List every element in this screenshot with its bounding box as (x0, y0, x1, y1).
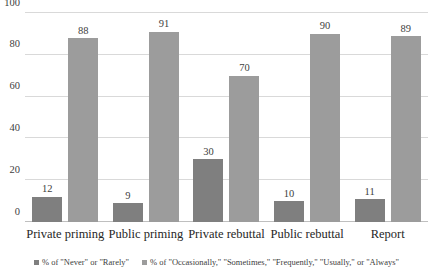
bar-slot: 70 (229, 13, 259, 222)
bar[interactable] (391, 36, 421, 222)
bar[interactable] (68, 38, 98, 222)
bar-groups: 1288991307010901189 (25, 13, 428, 222)
plot-area: 020406080100 1288991307010901189 (25, 13, 428, 222)
bar-slot: 9 (113, 13, 143, 222)
x-tick-label-0: Private priming (25, 228, 106, 242)
bar-value-label: 90 (320, 21, 331, 32)
y-tick-label-2: 40 (10, 123, 21, 134)
bar-group: 3070 (186, 13, 267, 222)
legend-swatch-icon (142, 260, 147, 265)
y-tick-label-0: 0 (15, 206, 20, 217)
y-tick-label-4: 80 (10, 39, 21, 50)
bar[interactable] (310, 34, 340, 222)
legend-item-0[interactable]: % of "Never" or "Rarely" (34, 258, 129, 267)
bar[interactable] (149, 32, 179, 222)
bar-slot: 91 (149, 13, 179, 222)
x-axis: Private primingPublic primingPrivate reb… (25, 228, 428, 242)
bar-value-label: 10 (284, 189, 295, 200)
bar-slot: 10 (274, 13, 304, 222)
legend-label: % of "Never" or "Rarely" (42, 258, 129, 267)
bar-value-label: 12 (42, 184, 53, 195)
bar-group: 1189 (347, 13, 428, 222)
x-tick-label-1: Public priming (106, 228, 187, 242)
bar-value-label: 89 (400, 24, 411, 35)
bar-slot: 11 (355, 13, 385, 222)
bar-value-label: 9 (125, 191, 130, 202)
x-tick-label-2: Private rebuttal (186, 228, 267, 242)
legend-item-1[interactable]: % of "Occasionally," "Sometimes," "Frequ… (142, 258, 399, 267)
bar-group: 1090 (267, 13, 348, 222)
bar-value-label: 70 (239, 63, 250, 74)
bar-slot: 88 (68, 13, 98, 222)
bar-slot: 89 (391, 13, 421, 222)
bar-group: 1288 (25, 13, 106, 222)
legend-swatch-icon (34, 260, 39, 265)
bar[interactable] (355, 199, 385, 222)
y-tick-label-3: 60 (10, 81, 21, 92)
bar-value-label: 91 (159, 19, 170, 30)
y-tick-label-1: 20 (10, 164, 21, 175)
x-tick-label-4: Report (347, 228, 428, 242)
bar[interactable] (193, 159, 223, 222)
bar-slot: 30 (193, 13, 223, 222)
bar-slot: 90 (310, 13, 340, 222)
chart-legend: % of "Never" or "Rarely"% of "Occasional… (0, 258, 433, 267)
bar-group: 991 (106, 13, 187, 222)
bar[interactable] (32, 197, 62, 222)
bar-value-label: 88 (78, 26, 89, 37)
y-tick-label-5: 100 (4, 0, 20, 8)
bar-value-label: 11 (365, 187, 375, 198)
bar-value-label: 30 (203, 147, 214, 158)
bar-chart: 020406080100 1288991307010901189 Private… (0, 0, 433, 279)
x-tick-label-3: Public rebuttal (267, 228, 348, 242)
bar[interactable] (229, 76, 259, 222)
bar-slot: 12 (32, 13, 62, 222)
legend-label: % of "Occasionally," "Sometimes," "Frequ… (150, 258, 399, 267)
bar[interactable] (274, 201, 304, 222)
bar[interactable] (113, 203, 143, 222)
